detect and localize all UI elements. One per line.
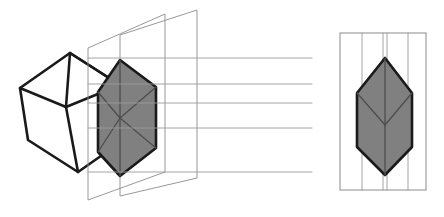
center-projected-hexagon	[98, 60, 156, 176]
diagram-canvas	[0, 0, 444, 217]
projection-diagram	[0, 0, 444, 217]
right-projected-hexagon	[357, 58, 412, 175]
center-projected-hexagon-face	[98, 60, 156, 176]
left-wireframe-cube-edge-2	[66, 53, 70, 107]
left-wireframe-cube-edge-3	[20, 88, 66, 107]
left-wireframe-cube-edge-4	[66, 107, 78, 172]
